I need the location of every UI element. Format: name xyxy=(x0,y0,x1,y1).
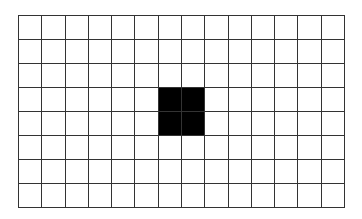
grid-cell xyxy=(275,64,298,88)
grid-cell xyxy=(66,16,89,40)
grid-cell xyxy=(322,136,345,160)
grid-cell xyxy=(19,184,42,208)
grid-cell xyxy=(135,136,158,160)
grid-cell xyxy=(252,160,275,184)
grid-cell xyxy=(298,40,321,64)
grid-cell xyxy=(252,88,275,112)
grid-cell xyxy=(19,136,42,160)
grid-cell xyxy=(182,64,205,88)
grid-cell xyxy=(89,184,112,208)
grid-cell xyxy=(229,184,252,208)
grid-cell xyxy=(159,160,182,184)
grid-cell xyxy=(182,40,205,64)
grid-cell xyxy=(229,136,252,160)
grid-cell xyxy=(322,184,345,208)
grid-cell xyxy=(275,184,298,208)
grid-cell xyxy=(298,88,321,112)
grid-cell xyxy=(135,16,158,40)
grid-cell xyxy=(205,136,228,160)
grid-cell xyxy=(42,160,65,184)
grid-cell xyxy=(159,184,182,208)
grid-cell xyxy=(159,40,182,64)
grid-cell xyxy=(19,112,42,136)
grid-cell xyxy=(229,160,252,184)
grid-cell xyxy=(19,40,42,64)
grid-cell xyxy=(112,64,135,88)
grid-cell xyxy=(205,184,228,208)
grid-cell xyxy=(66,112,89,136)
grid-cell xyxy=(135,184,158,208)
grid-cell xyxy=(322,88,345,112)
grid-cell xyxy=(135,112,158,136)
grid-cell xyxy=(229,64,252,88)
grid-cell xyxy=(112,16,135,40)
grid-cell xyxy=(298,136,321,160)
grid-cell xyxy=(275,136,298,160)
grid-cell xyxy=(66,88,89,112)
grid-cell xyxy=(229,112,252,136)
grid-cell xyxy=(89,16,112,40)
grid-cell xyxy=(205,16,228,40)
grid-cell xyxy=(275,88,298,112)
grid-cell xyxy=(229,16,252,40)
grid-cell-filled xyxy=(182,112,205,136)
grid-cell xyxy=(159,64,182,88)
grid-cell xyxy=(112,160,135,184)
grid-cell xyxy=(322,40,345,64)
grid-cell xyxy=(89,112,112,136)
grid-cell xyxy=(252,64,275,88)
grid-cell xyxy=(229,88,252,112)
grid-cell xyxy=(298,112,321,136)
grid-cell xyxy=(322,160,345,184)
grid-cell xyxy=(42,136,65,160)
grid-cell xyxy=(322,64,345,88)
grid-cell xyxy=(89,40,112,64)
grid-cell xyxy=(135,40,158,64)
grid-cell xyxy=(252,136,275,160)
grid-cell xyxy=(42,16,65,40)
grid-cell xyxy=(252,112,275,136)
grid-cell xyxy=(66,160,89,184)
grid-cell xyxy=(42,40,65,64)
grid-cell xyxy=(66,64,89,88)
grid-cell xyxy=(182,160,205,184)
grid-cell xyxy=(42,88,65,112)
grid-cell xyxy=(159,16,182,40)
grid-cell xyxy=(205,40,228,64)
grid-cell xyxy=(89,64,112,88)
grid-cell xyxy=(322,16,345,40)
grid-cell xyxy=(252,16,275,40)
grid-cell xyxy=(298,184,321,208)
grid-cell xyxy=(275,16,298,40)
grid-cell xyxy=(42,184,65,208)
grid-cell xyxy=(252,40,275,64)
grid-cell xyxy=(182,16,205,40)
grid-cell xyxy=(42,112,65,136)
grid-cell xyxy=(322,112,345,136)
grid-cell xyxy=(252,184,275,208)
grid-cell xyxy=(19,64,42,88)
grid-cell xyxy=(229,40,252,64)
grid-cell xyxy=(205,64,228,88)
grid-cell xyxy=(112,40,135,64)
grid-cell xyxy=(275,112,298,136)
grid-cell xyxy=(275,160,298,184)
grid-cell xyxy=(182,136,205,160)
grid-cell xyxy=(112,184,135,208)
grid-cell xyxy=(135,88,158,112)
grid-cell xyxy=(112,112,135,136)
grid-cell xyxy=(205,112,228,136)
grid-cell xyxy=(135,64,158,88)
grid-cell xyxy=(298,160,321,184)
grid-cell xyxy=(42,64,65,88)
grid-cell xyxy=(19,16,42,40)
grid-board xyxy=(18,15,345,208)
grid-cell xyxy=(298,64,321,88)
grid-cell xyxy=(66,40,89,64)
grid-cell xyxy=(205,160,228,184)
grid-cell xyxy=(205,88,228,112)
grid-cell xyxy=(182,184,205,208)
grid-cell xyxy=(275,40,298,64)
grid-cell xyxy=(135,160,158,184)
grid-cell xyxy=(112,136,135,160)
